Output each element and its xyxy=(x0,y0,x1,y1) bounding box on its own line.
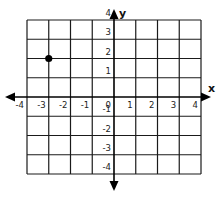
y-tick-label: 2 xyxy=(106,47,111,57)
y-tick-label: -4 xyxy=(103,162,111,172)
x-tick-label: 1 xyxy=(127,100,132,110)
x-tick-label: 2 xyxy=(149,100,154,110)
y-tick-label: -2 xyxy=(103,124,111,134)
y-tick-label: -3 xyxy=(103,143,111,153)
data-points xyxy=(45,55,52,62)
x-tick-label: 4 xyxy=(193,100,198,110)
x-tick-label: 3 xyxy=(171,100,176,110)
coordinate-plane: -4-3-2-101234-4-3-2-11234 x y xyxy=(0,0,219,197)
x-axis-label: x xyxy=(208,82,215,95)
x-tick-label: -1 xyxy=(81,100,89,110)
y-axis-down-arrow-icon xyxy=(110,181,119,191)
y-tick-label: -1 xyxy=(103,104,111,114)
x-tick-label: -4 xyxy=(16,100,24,110)
x-axis-left-arrow-icon xyxy=(5,93,15,102)
y-tick-label: 4 xyxy=(106,8,111,18)
tick-labels: -4-3-2-101234-4-3-2-11234 xyxy=(16,8,198,172)
y-tick-label: 1 xyxy=(106,66,111,76)
y-axis-label: y xyxy=(119,7,126,20)
y-tick-label: 3 xyxy=(106,27,111,37)
data-point xyxy=(45,55,52,62)
x-tick-label: -3 xyxy=(37,100,45,110)
x-tick-label: -2 xyxy=(59,100,67,110)
